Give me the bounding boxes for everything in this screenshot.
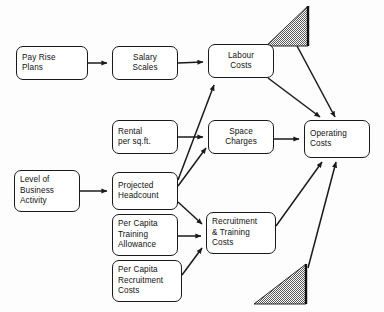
node-space_charges[interactable]: Space Charges	[208, 120, 274, 154]
flowchart-canvas: Pay Rise PlansSalary ScalesLabour CostsR…	[0, 0, 384, 312]
node-labour_costs[interactable]: Labour Costs	[208, 44, 274, 78]
node-label-salary_scales: Salary Scales	[132, 53, 157, 74]
node-label-rental_per_sqft: Rental per sq.ft.	[118, 127, 151, 148]
node-label-labour_costs: Labour Costs	[228, 51, 254, 72]
node-level_of_business_activity[interactable]: Level of Business Activity	[14, 170, 80, 212]
node-label-space_charges: Space Charges	[225, 127, 257, 148]
marker-top_marker	[266, 6, 308, 46]
edge-headcount-to-recruitment	[178, 202, 202, 224]
node-salary_scales[interactable]: Salary Scales	[112, 46, 178, 80]
node-per_capita_recruitment_costs[interactable]: Per Capita Recruitment Costs	[112, 260, 182, 302]
node-projected_headcount[interactable]: Projected Headcount	[112, 172, 178, 210]
node-pay_rise_plans[interactable]: Pay Rise Plans	[16, 46, 88, 80]
edge-recruitment-to-operating	[276, 162, 322, 226]
node-label-per_capita_recruitment_costs: Per Capita Recruitment Costs	[118, 265, 163, 296]
node-label-level_of_business_activity: Level of Business Activity	[20, 175, 54, 206]
edge-recruit-cost-to-recruitment	[182, 248, 202, 275]
node-per_capita_training_allowance[interactable]: Per Capita Training Allowance	[112, 214, 178, 256]
marker-bottom_marker	[254, 264, 306, 304]
node-label-recruitment_training_costs: Recruitment & Training Costs	[212, 217, 257, 248]
node-operating_costs[interactable]: Operating Costs	[304, 120, 370, 158]
edge-labour-to-operating	[268, 78, 320, 117]
edge-salary-to-labour	[178, 62, 203, 63]
node-rental_per_sqft[interactable]: Rental per sq.ft.	[112, 120, 178, 154]
node-label-pay_rise_plans: Pay Rise Plans	[22, 53, 56, 74]
node-label-operating_costs: Operating Costs	[310, 129, 347, 150]
node-label-per_capita_training_allowance: Per Capita Training Allowance	[118, 219, 158, 250]
node-label-projected_headcount: Projected Headcount	[118, 181, 159, 202]
edge-bottom-marker-to-operating	[308, 162, 336, 268]
edge-top-marker-to-operating	[296, 44, 335, 117]
node-recruitment_training_costs[interactable]: Recruitment & Training Costs	[206, 212, 276, 254]
